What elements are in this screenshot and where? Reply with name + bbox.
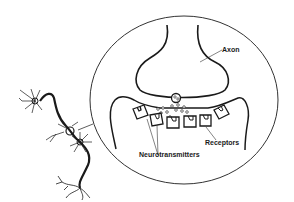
- synapse-diagram: Axon Receptors Neurotransmitters: [0, 0, 294, 202]
- neuron-illustration: [19, 89, 92, 200]
- neurotransmitters-label: Neurotransmitters: [139, 151, 200, 158]
- connector-line: [78, 124, 93, 130]
- receptors-label: Receptors: [205, 139, 239, 147]
- axon-label: Axon: [222, 46, 240, 53]
- axon-terminal: [136, 25, 228, 98]
- magnification-circle: [90, 16, 278, 184]
